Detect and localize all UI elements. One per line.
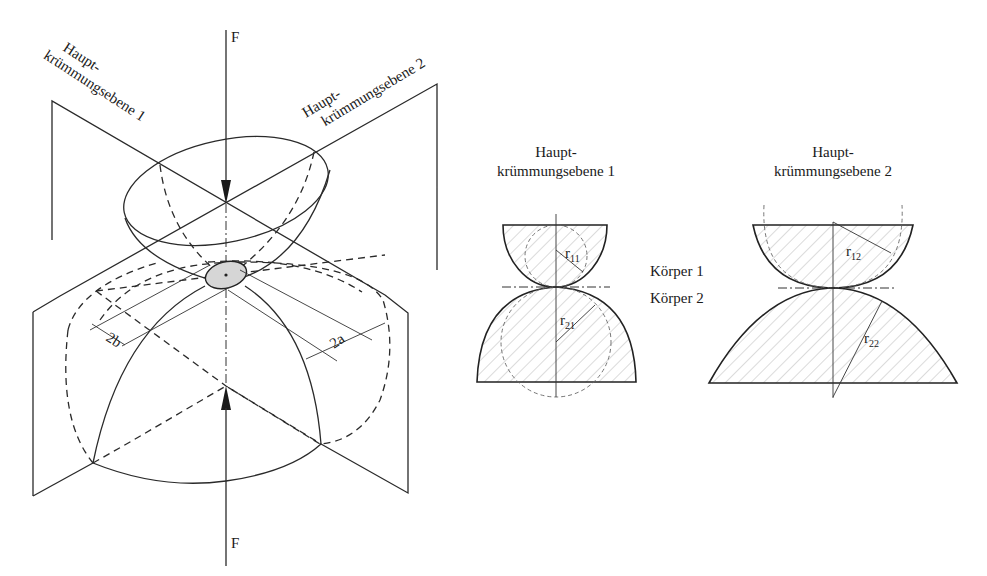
principal-plane-1 <box>33 101 408 496</box>
force-label-bottom: F <box>231 535 239 551</box>
body-1-label: Körper 1 <box>650 263 704 279</box>
force-label-top: F <box>231 29 239 45</box>
section-1-title-line1: Haupt- <box>535 144 577 160</box>
section-2-title-line1: Haupt- <box>812 144 854 160</box>
section-principal-plane-2: Haupt- krümmungsebene 2 r12 r22 <box>709 144 957 398</box>
section-1-title-line2: krümmungsebene 1 <box>497 163 615 179</box>
svg-text:2b: 2b <box>103 329 124 351</box>
force-arrow-up <box>221 386 231 410</box>
section-2-title-line2: krümmungsebene 2 <box>774 163 892 179</box>
plane-2-label: Haupt- krümmungsebene 2 <box>299 40 427 135</box>
dimension-2a: 2a <box>228 270 385 361</box>
isometric-view: F F 2b <box>33 29 437 566</box>
body-2-label: Körper 2 <box>650 290 704 306</box>
lower-body <box>66 255 390 483</box>
section-1-body-2 <box>477 287 636 382</box>
section-principal-plane-1: Haupt- krümmungsebene 1 r11 r21 <box>477 144 636 397</box>
plane-1-label: Haupt- krümmungsebene 1 <box>41 33 158 125</box>
contact-diagram: F F 2b <box>0 0 987 576</box>
section-1-body-1 <box>503 225 607 287</box>
